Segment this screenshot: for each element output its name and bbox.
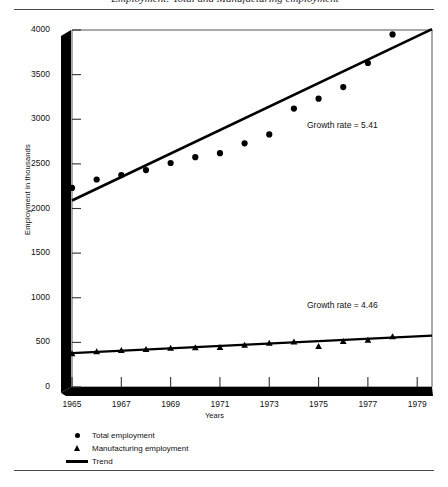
data-point-total-employment <box>291 105 297 111</box>
data-point-total-employment <box>217 150 223 156</box>
legend-item[interactable]: Manufacturing employment <box>62 442 189 454</box>
legend-item-label: Total employment <box>92 431 155 440</box>
data-point-total-employment <box>69 185 75 191</box>
data-point-total-employment <box>365 60 371 66</box>
trend-line <box>72 29 432 200</box>
data-point-total-employment <box>168 160 174 166</box>
data-point-total-employment <box>266 131 272 137</box>
legend-line-icon <box>62 460 92 463</box>
legend-item-label: Trend <box>92 457 113 466</box>
y-axis-bar <box>61 30 71 393</box>
legend-marker-shape <box>66 460 88 463</box>
chart-legend: Total employmentManufacturing employment… <box>62 429 189 468</box>
legend-item[interactable]: Total employment <box>62 429 189 441</box>
data-point-total-employment <box>315 96 321 102</box>
data-point-total-employment <box>242 140 248 146</box>
data-point-total-employment <box>192 154 198 160</box>
data-point-total-employment <box>389 31 395 37</box>
trend-line <box>72 336 432 353</box>
figure-container: Employment: Total and Manufacturing empl… <box>0 0 448 487</box>
legend-marker-shape <box>74 445 80 451</box>
plot-area <box>0 0 448 487</box>
x-axis-bar <box>61 387 433 396</box>
chart-svg <box>0 0 448 487</box>
legend-triangle-icon <box>62 445 92 451</box>
data-point-total-employment <box>118 172 124 178</box>
plot-frame <box>72 30 432 387</box>
data-point-total-employment <box>94 176 100 182</box>
legend-item-label: Manufacturing employment <box>92 444 189 453</box>
legend-item[interactable]: Trend <box>62 455 189 467</box>
divider-bottom <box>14 470 434 471</box>
legend-circle-icon <box>62 433 92 438</box>
data-point-total-employment <box>340 84 346 90</box>
legend-marker-shape <box>75 433 80 438</box>
data-point-manufacturing-employment <box>389 333 396 339</box>
data-point-manufacturing-employment <box>315 343 322 349</box>
data-point-total-employment <box>143 167 149 173</box>
